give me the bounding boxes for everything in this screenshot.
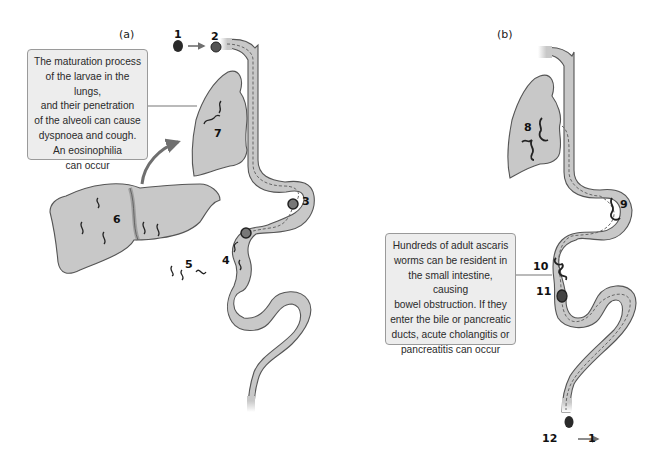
callout-line: enter the bile or pancreatic (390, 313, 511, 328)
stage-8-label: 8 (524, 121, 532, 134)
callout-line: worms can be resident in (390, 254, 511, 269)
stage-4-label: 4 (222, 254, 230, 267)
stage-12-arrow-target: 1 (588, 432, 596, 445)
egg-in-duodenum-icon (241, 228, 251, 238)
stage-6-label: 6 (113, 213, 121, 226)
callout-line: An eosinophilia (32, 144, 143, 159)
callout-line: dyspnoea and cough. (32, 129, 143, 144)
stage-2-label: 2 (211, 30, 219, 43)
hatched-egg-icon (211, 42, 221, 52)
ascaris-egg-icon (173, 40, 183, 52)
callout-intestine-symptoms: Hundreds of adult ascaris worms can be r… (385, 233, 516, 345)
callout-line: Hundreds of adult ascaris (390, 239, 511, 254)
callout-line: of the larvae in the lungs, (32, 70, 143, 100)
lung-b (508, 75, 561, 178)
stage-5-label: 5 (185, 258, 193, 271)
callout-line: the small intestine, causing (390, 269, 511, 299)
stage-12-label: 12 (542, 432, 557, 445)
egg-in-intestine-icon (557, 290, 567, 302)
callout-line: and their penetration (32, 99, 143, 114)
stage-7-label: 7 (214, 127, 222, 140)
stage-9-label: 9 (620, 198, 628, 211)
callout-line: bowel obstruction. If they (390, 298, 511, 313)
callout-line: of the alveoli can cause (32, 114, 143, 129)
gi-tract-b (544, 47, 636, 412)
callout-line: pancreatitis can occur (390, 343, 511, 358)
stage-3-label: 3 (302, 195, 310, 208)
egg-in-stomach-icon (288, 199, 298, 209)
stage-11-label: 11 (536, 285, 551, 298)
callout-line: can occur (32, 159, 143, 174)
panel-b-label: (b) (497, 28, 513, 41)
stage-1-label: 1 (174, 28, 182, 41)
callout-lung-symptoms: The maturation process of the larvae in … (27, 49, 148, 160)
lung-a (192, 71, 247, 176)
panel-a-label: (a) (119, 28, 134, 41)
callout-line: ducts, acute cholangitis or (390, 328, 511, 343)
egg-excreted-icon (565, 416, 574, 428)
callout-line: The maturation process (32, 55, 143, 70)
stage-10-label: 10 (533, 260, 548, 273)
